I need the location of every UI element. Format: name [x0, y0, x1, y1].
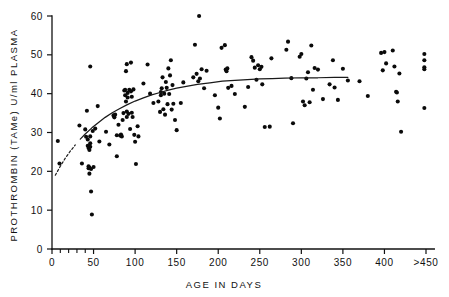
- data-point: [233, 92, 237, 96]
- data-point: [251, 59, 255, 63]
- x-tick-label-300: 300: [292, 257, 311, 268]
- fit-curve-extrapolated-segment: [55, 145, 75, 175]
- data-point: [77, 123, 81, 127]
- data-point: [165, 102, 169, 106]
- data-point: [301, 99, 305, 103]
- data-point: [146, 62, 150, 66]
- data-point: [85, 109, 89, 113]
- data-point: [104, 130, 108, 134]
- y-tick-label-40: 40: [31, 88, 43, 99]
- x-tick-label-400: 400: [375, 257, 394, 268]
- x-tick-label-0: 0: [49, 257, 55, 268]
- data-point: [200, 67, 204, 71]
- data-point: [169, 58, 173, 62]
- data-point: [170, 83, 174, 87]
- data-point: [328, 82, 332, 86]
- data-point: [223, 43, 227, 47]
- data-point: [422, 106, 426, 110]
- data-point: [80, 162, 84, 166]
- data-point: [56, 139, 60, 143]
- data-point: [291, 121, 295, 125]
- prothrombin-age-scatter-figure: 0102030405060 050100150200250300350400>4…: [0, 0, 449, 297]
- data-point: [366, 94, 370, 98]
- data-point: [57, 162, 61, 166]
- data-point: [107, 142, 111, 146]
- data-point: [357, 79, 361, 83]
- data-point: [179, 101, 183, 105]
- data-point: [311, 88, 315, 92]
- data-point: [346, 78, 350, 82]
- data-point: [88, 134, 92, 138]
- y-tick-label-10: 10: [31, 205, 43, 216]
- y-tick-label-50: 50: [31, 49, 43, 60]
- data-point: [198, 76, 202, 80]
- data-point: [90, 212, 94, 216]
- data-point: [220, 46, 224, 50]
- data-point: [205, 69, 209, 73]
- data-point: [93, 127, 97, 131]
- data-point: [422, 52, 426, 56]
- x-tick-label-gt450: >450: [414, 257, 439, 268]
- data-point: [133, 140, 137, 144]
- x-axis-title: AGE IN DAYS: [186, 279, 263, 290]
- data-point: [303, 103, 307, 107]
- data-point: [171, 102, 175, 106]
- data-point: [116, 123, 120, 127]
- data-point: [299, 52, 303, 56]
- data-point: [422, 67, 426, 71]
- data-point: [384, 61, 388, 65]
- data-point: [333, 85, 337, 89]
- fit-curve-solid-segment: [80, 77, 348, 139]
- data-point: [92, 165, 96, 169]
- data-point: [124, 99, 128, 103]
- data-point: [132, 133, 136, 137]
- data-point: [156, 99, 160, 103]
- data-point: [193, 43, 197, 47]
- data-point: [269, 56, 273, 60]
- data-point: [395, 90, 399, 94]
- data-point: [87, 172, 91, 176]
- x-tick-label-50: 50: [87, 257, 99, 268]
- data-point: [88, 64, 92, 68]
- data-point: [381, 68, 385, 72]
- data-point: [83, 127, 87, 131]
- data-point: [382, 50, 386, 54]
- data-point: [195, 72, 199, 76]
- data-point: [181, 80, 185, 84]
- data-point: [392, 64, 396, 68]
- data-point: [304, 76, 308, 80]
- data-point: [160, 75, 164, 79]
- scatter-points-layer: [56, 14, 427, 217]
- data-point: [225, 66, 229, 70]
- data-point: [309, 43, 313, 47]
- data-point: [202, 86, 206, 90]
- data-point: [422, 58, 426, 62]
- data-point: [97, 139, 101, 143]
- data-point: [131, 115, 135, 119]
- data-point: [165, 86, 169, 90]
- data-point: [260, 82, 264, 86]
- x-tick-label-150: 150: [167, 257, 186, 268]
- y-tick-label-60: 60: [31, 11, 43, 22]
- data-point: [158, 110, 162, 114]
- data-point: [284, 48, 288, 52]
- data-point: [246, 85, 250, 89]
- data-point: [88, 145, 92, 149]
- data-point: [397, 71, 401, 75]
- data-point: [170, 108, 174, 112]
- data-point: [249, 55, 253, 59]
- data-point: [167, 92, 171, 96]
- data-point: [253, 66, 257, 70]
- data-point: [321, 97, 325, 101]
- data-point: [161, 107, 165, 111]
- y-tick-label-0: 0: [37, 244, 43, 255]
- data-point: [130, 111, 134, 115]
- y-tick-label-20: 20: [31, 166, 43, 177]
- data-point: [136, 124, 140, 128]
- data-point: [243, 105, 247, 109]
- data-point: [316, 68, 320, 72]
- x-tick-label-100: 100: [126, 257, 145, 268]
- fit-curve-layer: [55, 77, 348, 175]
- data-point: [164, 80, 168, 84]
- data-point: [88, 141, 92, 145]
